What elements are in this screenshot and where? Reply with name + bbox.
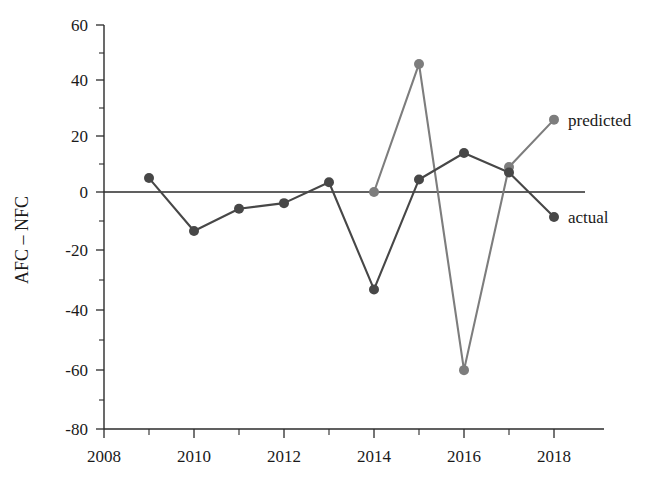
- x-axis-tick-labels: 2008 2010 2012 2014 2016 2018: [87, 447, 571, 466]
- y-tick-label: 20: [71, 127, 88, 146]
- series-annotation-predicted: predicted: [568, 111, 632, 130]
- data-point: [369, 284, 379, 294]
- series-annotations: predictedactual: [568, 111, 632, 227]
- y-tick-label: -60: [65, 361, 88, 380]
- series-layer: [144, 59, 559, 375]
- data-point: [189, 226, 199, 236]
- data-point: [324, 177, 334, 187]
- data-point: [414, 59, 424, 69]
- axis-lines: [104, 25, 604, 429]
- chart-container: AFC – NFC 60 40 20: [0, 0, 668, 491]
- x-tick-label: 2010: [177, 447, 211, 466]
- data-point: [459, 365, 469, 375]
- data-point: [504, 168, 514, 178]
- y-axis-tick-labels: 60 40 20 0 -20 -40 -60 -80: [65, 16, 88, 439]
- data-point: [549, 115, 559, 125]
- data-point: [279, 198, 289, 208]
- series-predicted: [369, 59, 559, 375]
- y-axis-ticks: [96, 25, 104, 429]
- data-point: [234, 204, 244, 214]
- line-chart: AFC – NFC 60 40 20: [0, 0, 668, 491]
- data-point: [144, 173, 154, 183]
- x-tick-label: 2018: [537, 447, 571, 466]
- x-axis-ticks: [104, 429, 554, 438]
- x-tick-label: 2012: [267, 447, 301, 466]
- x-tick-label: 2014: [357, 447, 392, 466]
- y-tick-label: 0: [80, 183, 89, 202]
- y-tick-label: 40: [71, 71, 88, 90]
- series-annotation-actual: actual: [568, 208, 609, 227]
- y-axis-title: AFC – NFC: [12, 196, 32, 284]
- x-tick-label: 2008: [87, 447, 121, 466]
- data-point: [549, 212, 559, 222]
- series-line-actual: [149, 153, 554, 289]
- y-tick-label: -20: [65, 241, 88, 260]
- data-point: [369, 187, 379, 197]
- data-point: [459, 148, 469, 158]
- x-tick-label: 2016: [447, 447, 481, 466]
- y-tick-label: -40: [65, 301, 88, 320]
- series-line-predicted: [374, 64, 554, 370]
- data-point: [414, 174, 424, 184]
- y-tick-label: 60: [71, 16, 88, 35]
- y-tick-label: -80: [65, 420, 88, 439]
